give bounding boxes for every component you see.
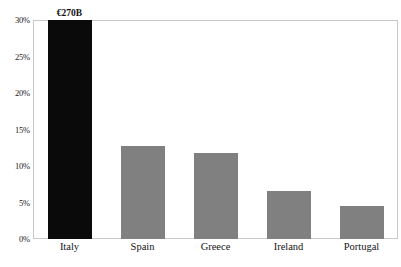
x-axis-tick-label: Portugal	[344, 241, 380, 252]
x-axis-tick-label: Italy	[60, 241, 79, 252]
y-axis-tick-label: 25%	[15, 52, 30, 62]
bar-rect	[194, 153, 238, 239]
y-axis-tick-label: 20%	[15, 88, 30, 98]
x-axis-tick-label: Greece	[201, 241, 231, 252]
bar-portugal[interactable]	[340, 206, 384, 239]
bar-rect	[121, 146, 165, 239]
bar-rect	[340, 206, 384, 239]
y-axis-tick-label: 5%	[19, 198, 30, 208]
bars-layer: €270B	[33, 20, 398, 239]
bar-greece[interactable]	[194, 153, 238, 239]
bar-rect	[267, 191, 311, 239]
bar-spain[interactable]	[121, 146, 165, 239]
bar-ireland[interactable]	[267, 191, 311, 239]
x-axis-tick-label: Ireland	[274, 241, 304, 252]
y-axis-tick-label: 10%	[15, 161, 30, 171]
y-axis-tick-label: 0%	[19, 234, 30, 244]
x-axis-tick-label: Spain	[131, 241, 155, 252]
bar-value-label: €270B	[57, 8, 82, 18]
y-axis-tick-label: 30%	[15, 15, 30, 25]
y-axis: 30%25%20%15%10%5%0%	[0, 20, 30, 239]
bar-italy[interactable]: €270B	[48, 20, 92, 239]
y-axis-tick-label: 15%	[15, 125, 30, 135]
x-axis: ItalySpainGreeceIrelandPortugal	[33, 241, 398, 261]
bar-chart: 30%25%20%15%10%5%0% €270B ItalySpainGree…	[0, 0, 401, 267]
bar-rect	[48, 20, 92, 239]
